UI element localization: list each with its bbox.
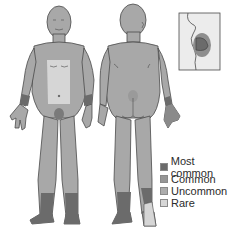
back-right-foot-rare <box>144 202 156 226</box>
legend-label: Rare <box>171 197 195 209</box>
lip-inset <box>179 13 220 70</box>
legend-label: Common <box>171 173 216 185</box>
legend-item-uncommon: Uncommon <box>160 185 238 197</box>
front-left-ankle-most-common <box>30 193 54 224</box>
legend-swatch-common <box>160 175 168 183</box>
front-body-figure <box>10 6 94 224</box>
legend-swatch-most-common <box>160 163 168 171</box>
legend: Most common Common Uncommon Rare <box>160 161 238 209</box>
front-right-ankle-most-common <box>64 193 80 224</box>
back-head <box>120 4 146 36</box>
front-right-wrist-most-common <box>84 94 92 106</box>
back-left-ankle-most-common <box>112 192 132 224</box>
front-head <box>47 6 71 38</box>
legend-label: Uncommon <box>171 185 227 197</box>
back-hand-common <box>164 104 180 128</box>
legend-swatch-uncommon <box>160 187 168 195</box>
legend-item-most-common: Most common <box>160 161 238 173</box>
legend-item-rare: Rare <box>160 197 238 209</box>
legend-swatch-rare <box>160 199 168 207</box>
body-distribution-diagram: Most common Common Uncommon Rare <box>0 0 238 229</box>
front-groin-most-common <box>54 108 64 120</box>
